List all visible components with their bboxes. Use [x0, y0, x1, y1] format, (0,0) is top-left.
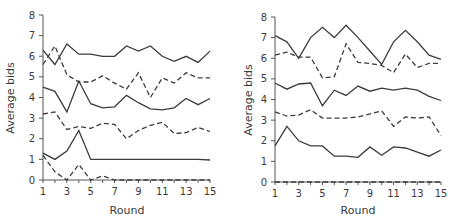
y-tick-label: 4	[29, 92, 35, 103]
x-tick-label: 13	[411, 188, 424, 199]
series-line-solid-top	[275, 25, 441, 64]
left-axes: 01234567813579111315	[29, 10, 217, 198]
y-tick-label: 1	[29, 154, 35, 165]
series-line-solid-bottom	[43, 131, 210, 161]
left-xlabel: Round	[110, 204, 145, 217]
x-tick-label: 7	[111, 186, 117, 197]
y-tick-label: 7	[261, 32, 267, 43]
x-tick-label: 1	[40, 186, 46, 197]
series-line-dashed-upper	[43, 46, 210, 98]
x-tick-label: 3	[296, 188, 302, 199]
series-line-dashed-upper	[275, 44, 441, 78]
y-tick-label: 3	[29, 113, 35, 124]
x-tick-label: 5	[88, 186, 94, 197]
figure: 01234567813579111315 Round Average bids …	[0, 0, 463, 224]
x-tick-label: 9	[367, 188, 373, 199]
x-tick-label: 1	[272, 188, 278, 199]
right-axes: 01234567813579111315	[261, 12, 448, 200]
series-line-solid-middle	[275, 83, 441, 106]
x-tick-label: 5	[319, 188, 325, 199]
y-tick-label: 6	[261, 53, 267, 64]
series-line-solid-bottom	[275, 126, 441, 157]
y-tick-label: 8	[29, 10, 35, 21]
y-tick-label: 2	[261, 135, 267, 146]
left-lines	[43, 44, 210, 180]
x-tick-label: 3	[64, 186, 70, 197]
y-tick-label: 4	[261, 94, 267, 105]
y-tick-label: 6	[29, 51, 35, 62]
y-tick-label: 3	[261, 115, 267, 126]
right-ylabel: Average bids	[242, 64, 255, 136]
x-tick-label: 11	[387, 188, 400, 199]
y-tick-label: 0	[29, 175, 35, 186]
chart-left: 01234567813579111315 Round Average bids …	[0, 0, 463, 224]
y-tick-label: 2	[29, 133, 35, 144]
x-tick-label: 13	[180, 186, 193, 197]
series-line-solid-middle	[43, 81, 210, 112]
series-line-solid-top	[43, 44, 210, 65]
series-line-dashed-middle	[43, 112, 210, 139]
x-tick-label: 15	[204, 186, 217, 197]
y-tick-label: 1	[261, 156, 267, 167]
y-tick-label: 5	[261, 73, 267, 84]
right-lines	[275, 25, 441, 182]
left-ylabel: Average bids	[4, 62, 17, 134]
x-tick-label: 7	[343, 188, 349, 199]
series-line-dashed-middle	[275, 110, 441, 136]
right-xlabel: Round	[341, 204, 376, 217]
x-tick-label: 11	[156, 186, 169, 197]
x-tick-label: 9	[135, 186, 141, 197]
y-tick-label: 7	[29, 30, 35, 41]
y-tick-label: 0	[261, 177, 267, 188]
y-tick-label: 5	[29, 71, 35, 82]
x-tick-label: 15	[435, 188, 448, 199]
y-tick-label: 8	[261, 12, 267, 23]
